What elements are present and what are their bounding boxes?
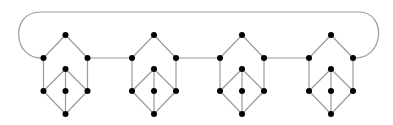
graph-node bbox=[151, 88, 157, 94]
gadget-edge bbox=[331, 91, 353, 114]
gadget-edge bbox=[220, 69, 242, 91]
graph-node bbox=[217, 88, 223, 94]
graph-diagram bbox=[0, 0, 393, 125]
graph-node bbox=[41, 55, 47, 61]
gadget-edge bbox=[242, 35, 264, 58]
gadget-edge bbox=[154, 35, 176, 58]
graph-node bbox=[306, 88, 312, 94]
graph-node bbox=[129, 55, 135, 61]
graph-node bbox=[173, 55, 179, 61]
graph-node bbox=[151, 66, 157, 72]
graph-node bbox=[350, 55, 356, 61]
gadget-edge bbox=[66, 69, 88, 91]
gadget-edge bbox=[220, 91, 242, 114]
graph-node bbox=[217, 55, 223, 61]
gadget-edge bbox=[66, 91, 88, 114]
graph-node bbox=[261, 55, 267, 61]
graph-node bbox=[173, 88, 179, 94]
graph-node bbox=[63, 111, 69, 117]
graph-node bbox=[239, 88, 245, 94]
edges bbox=[44, 35, 354, 114]
gadget-edge bbox=[44, 35, 66, 58]
graph-node bbox=[328, 88, 334, 94]
loop-edge bbox=[19, 12, 379, 58]
gadget-edge bbox=[44, 91, 66, 114]
loop-edge-path bbox=[19, 12, 379, 58]
graph-node bbox=[151, 111, 157, 117]
graph-node bbox=[328, 111, 334, 117]
gadget-edge bbox=[331, 69, 353, 91]
gadget-edge bbox=[309, 91, 331, 114]
graph-node bbox=[41, 88, 47, 94]
gadget-edge bbox=[154, 69, 176, 91]
graph-node bbox=[63, 88, 69, 94]
gadget-edge bbox=[44, 69, 66, 91]
graph-node bbox=[328, 66, 334, 72]
graph-node bbox=[261, 88, 267, 94]
graph-node bbox=[129, 88, 135, 94]
gadget-edge bbox=[132, 35, 154, 58]
graph-node bbox=[350, 88, 356, 94]
graph-node bbox=[85, 55, 91, 61]
gadget-edge bbox=[66, 35, 88, 58]
gadget-edge bbox=[242, 69, 264, 91]
gadget-edge bbox=[309, 69, 331, 91]
graph-node bbox=[85, 88, 91, 94]
gadget-edge bbox=[154, 91, 176, 114]
gadget-edge bbox=[331, 35, 353, 58]
graph-node bbox=[306, 55, 312, 61]
gadget-edge bbox=[220, 35, 242, 58]
graph-node bbox=[151, 32, 157, 38]
gadget-edge bbox=[242, 91, 264, 114]
gadget-edge bbox=[309, 35, 331, 58]
graph-node bbox=[239, 32, 245, 38]
gadget-edge bbox=[132, 69, 154, 91]
graph-node bbox=[239, 66, 245, 72]
graph-node bbox=[239, 111, 245, 117]
gadget-edge bbox=[132, 91, 154, 114]
graph-node bbox=[63, 32, 69, 38]
graph-node bbox=[328, 32, 334, 38]
graph-node bbox=[63, 66, 69, 72]
